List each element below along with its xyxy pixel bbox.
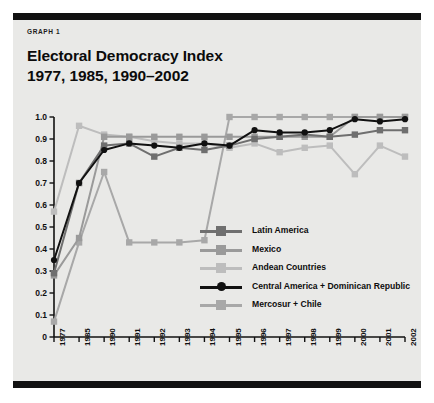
y-tick-label: 0.6 (23, 200, 47, 210)
legend-marker-square-icon (216, 263, 226, 273)
legend-marker-square-icon (216, 226, 226, 236)
legend-label: Mexico (252, 243, 281, 256)
y-tick-label: 0.3 (23, 266, 47, 276)
x-tick-label: 1998 (309, 328, 318, 346)
x-tick-label: 1995 (234, 328, 243, 346)
x-tick-label: 1992 (158, 328, 167, 346)
y-tick-label: 0.4 (23, 244, 47, 254)
x-tick-label: 1993 (183, 328, 192, 346)
y-tick-label: 0.7 (23, 178, 47, 188)
x-tick-label: 1990 (108, 328, 117, 346)
x-tick-label: 1999 (334, 328, 343, 346)
y-tick-label: 0.5 (23, 222, 47, 232)
y-tick-label: 0.9 (23, 134, 47, 144)
legend-label: Andean Countries (252, 261, 326, 274)
legend-label: Central America + Dominican Republic (252, 280, 410, 293)
x-tick-label: 1994 (208, 328, 217, 346)
legend-label: Latin America (252, 224, 309, 237)
x-tick-label: 1996 (259, 328, 268, 346)
legend-marker-square-icon (216, 300, 226, 310)
x-tick-label: 1991 (133, 328, 142, 346)
y-tick-label: 0.8 (23, 156, 47, 166)
x-tick-label: 1985 (83, 328, 92, 346)
y-tick-label: 1.0 (23, 112, 47, 122)
legend-marker-circle-icon (217, 282, 226, 291)
series-mexico (51, 114, 408, 279)
y-tick-label: 0 (23, 332, 47, 342)
legend-label: Mercosur + Chile (252, 298, 322, 311)
plot-area: 1.00.90.80.70.60.50.40.30.20.10 19771985… (0, 0, 434, 403)
x-tick-label: 1997 (284, 328, 293, 346)
y-tick-label: 0.2 (23, 288, 47, 298)
x-tick-label: 2000 (359, 328, 368, 346)
x-tick-label: 2001 (384, 328, 393, 346)
graph-figure: GRAPH 1 Electoral Democracy Index 1977, … (0, 0, 434, 403)
x-tick-label: 2002 (409, 328, 418, 346)
y-tick-label: 0.1 (23, 310, 47, 320)
x-tick-label: 1977 (58, 328, 67, 346)
legend-marker-square-icon (216, 245, 226, 255)
series-lines (51, 114, 408, 325)
